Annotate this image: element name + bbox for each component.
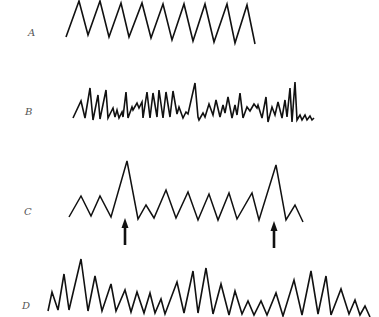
up-arrow-icon (122, 218, 129, 245)
waveform-figure: A B C D (0, 0, 379, 317)
up-arrow-icon (271, 221, 278, 248)
waveform-trace-b (73, 82, 314, 122)
waveform-trace-c (69, 161, 303, 222)
waveform-trace-a (66, 1, 255, 44)
waveform-trace-d (48, 259, 370, 317)
traces-svg (0, 0, 379, 317)
arrow-markers (122, 218, 278, 248)
